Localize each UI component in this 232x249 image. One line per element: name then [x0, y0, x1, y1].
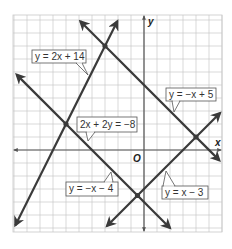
intersection-point [63, 121, 68, 126]
label-y-neg-x-plus-5: y = −x + 5 [166, 88, 216, 112]
label-y-2x-plus-14: y = 2x + 14 [32, 50, 88, 75]
label-text: y = −x − 4 [69, 183, 114, 194]
coordinate-plane: x y O y = 2x + 14 2x + 2y = −8 y = −x + … [0, 0, 232, 249]
line-l3 [17, 75, 170, 228]
intersection-point [102, 43, 107, 48]
label-y-x-minus-3: y = x − 3 [162, 171, 208, 199]
label-text: y = −x + 5 [169, 89, 214, 100]
intersection-point [135, 193, 140, 198]
label-text: 2x + 2y = −8 [80, 119, 136, 130]
label-text: y = x − 3 [165, 187, 204, 198]
y-axis-label: y [147, 16, 154, 27]
label-2x-plus-2y-eq-neg8: 2x + 2y = −8 [77, 117, 137, 141]
origin-label: O [133, 153, 141, 164]
x-axis-label: x [214, 137, 221, 148]
label-text: y = 2x + 14 [35, 51, 85, 62]
intersection-point [193, 134, 198, 139]
